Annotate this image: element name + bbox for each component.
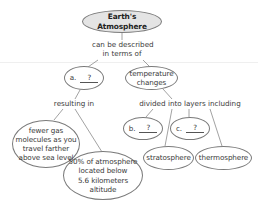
node-label: Earth's Atmosphere bbox=[83, 12, 161, 30]
connector-divided-b bbox=[146, 109, 153, 117]
link-label-line: in terms of bbox=[92, 49, 152, 58]
node-letter: a. bbox=[70, 73, 77, 82]
link-label-line: can be described bbox=[92, 40, 152, 49]
node-label-line: temperature bbox=[129, 69, 173, 78]
answer-blank[interactable]: ? bbox=[186, 124, 204, 133]
answer-blank[interactable]: ? bbox=[80, 74, 98, 83]
node-label-line: 50% of atmosphere bbox=[69, 157, 138, 166]
node-temperature-changes: temperature changes bbox=[125, 66, 178, 90]
node-a-blank: a. ? bbox=[64, 66, 104, 90]
node-letter: c. bbox=[176, 124, 182, 133]
node-label-line: changes bbox=[129, 78, 173, 87]
link-resulting-in: resulting in bbox=[44, 99, 104, 108]
node-label-line: 5.6 kilometers bbox=[69, 176, 138, 185]
answer-blank[interactable]: ? bbox=[139, 124, 157, 133]
node-thermosphere: thermosphere bbox=[195, 146, 252, 170]
node-letter: b. bbox=[129, 124, 136, 133]
node-earths-atmosphere: Earth's Atmosphere bbox=[82, 10, 162, 33]
node-label-line: above sea level bbox=[16, 153, 77, 162]
node-label-line: altitude bbox=[69, 185, 138, 194]
node-label-line: molecules as you bbox=[16, 135, 77, 144]
node-label: stratosphere bbox=[146, 153, 190, 162]
node-fifty-percent-atmosphere: 50% of atmosphere located below 5.6 kilo… bbox=[63, 151, 143, 200]
link-divided-into-layers: divided into layers including bbox=[138, 99, 242, 108]
node-c-blank: c. ? bbox=[170, 117, 210, 140]
node-stratosphere: stratosphere bbox=[143, 146, 194, 170]
connector-divided-thermosphere bbox=[210, 109, 222, 146]
node-label-line: located below bbox=[69, 166, 138, 175]
node-label-line: fewer gas bbox=[16, 126, 77, 135]
link-can-be-described: can be described in terms of bbox=[92, 40, 152, 58]
connector-temperature-divided bbox=[163, 89, 172, 99]
connector-resulting-fewer bbox=[54, 109, 63, 120]
node-b-blank: b. ? bbox=[123, 117, 163, 140]
node-label-line: travel farther bbox=[16, 144, 77, 153]
node-label: thermosphere bbox=[199, 153, 248, 162]
connector-a-resulting bbox=[75, 90, 80, 99]
